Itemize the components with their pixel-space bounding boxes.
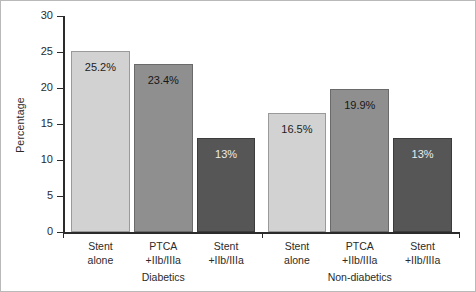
y-axis-tick-label: 0 <box>47 225 53 237</box>
bar-chart-figure: Percentage 051015202530 25.2%23.4%13%16.… <box>0 0 476 292</box>
bar-value-label: 13% <box>394 148 451 160</box>
x-axis-category-label: Stent+IIb/IIIa <box>386 240 460 267</box>
bar-value-label: 23.4% <box>135 74 192 86</box>
y-axis-tick-label: 20 <box>41 81 53 93</box>
y-axis-title: Percentage <box>14 65 26 185</box>
y-axis-tick-label: 15 <box>41 117 53 129</box>
y-axis-tick-label: 25 <box>41 45 53 57</box>
y-axis-tick: 15 <box>57 124 63 125</box>
bar[interactable]: 23.4% <box>134 64 193 232</box>
y-axis-tick: 5 <box>57 196 63 197</box>
bar[interactable]: 16.5% <box>268 113 327 232</box>
category-label-line-2: +IIb/IIIa <box>189 254 263 268</box>
bar-value-label: 16.5% <box>269 123 326 135</box>
y-axis-tick-label: 5 <box>47 189 53 201</box>
plot-area: 051015202530 25.2%23.4%13%16.5%19.9%13% <box>63 16 460 232</box>
y-axis-tick: 20 <box>57 88 63 89</box>
y-axis-line <box>63 16 65 232</box>
bar[interactable]: 13% <box>197 138 256 232</box>
y-axis-tick-label: 30 <box>41 9 53 21</box>
bar-value-label: 19.9% <box>331 99 388 111</box>
x-axis-category-label: Stent+IIb/IIIa <box>189 240 263 267</box>
y-axis-tick-label: 10 <box>41 153 53 165</box>
category-label-line-2: +IIb/IIIa <box>386 254 460 268</box>
bar-value-label: 25.2% <box>72 61 129 73</box>
bar[interactable]: 13% <box>393 138 452 232</box>
x-axis-group-label: Non-diabetics <box>290 271 430 283</box>
category-label-line-1: Stent <box>189 240 263 254</box>
y-axis-tick: 30 <box>57 16 63 17</box>
x-axis-tick <box>459 232 460 238</box>
x-axis-tick <box>63 232 64 238</box>
bar-value-label: 13% <box>198 148 255 160</box>
category-label-line-1: Stent <box>386 240 460 254</box>
y-axis-tick: 10 <box>57 160 63 161</box>
y-axis-tick: 25 <box>57 52 63 53</box>
bar[interactable]: 19.9% <box>330 89 389 232</box>
x-axis-group-label: Diabetics <box>93 271 233 283</box>
bar[interactable]: 25.2% <box>71 51 130 232</box>
x-axis-tick <box>262 232 263 238</box>
